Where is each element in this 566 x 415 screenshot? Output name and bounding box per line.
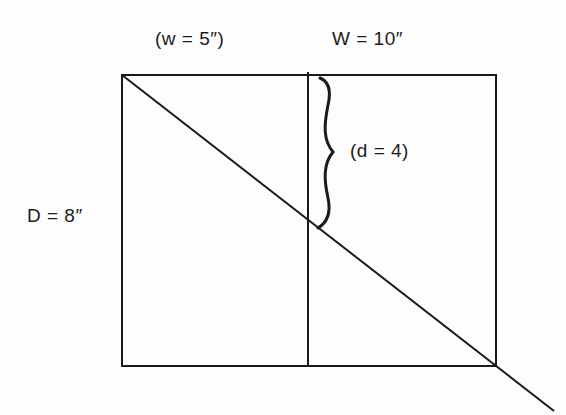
label-small-width: (w = 5″) [155, 28, 224, 50]
similar-triangles-diagram [0, 0, 566, 415]
curly-brace-icon [318, 78, 333, 228]
label-large-width: W = 10″ [332, 28, 403, 50]
label-small-depth: (d = 4) [350, 140, 409, 162]
label-large-depth: D = 8″ [27, 205, 83, 227]
diagonal-line [122, 75, 554, 411]
